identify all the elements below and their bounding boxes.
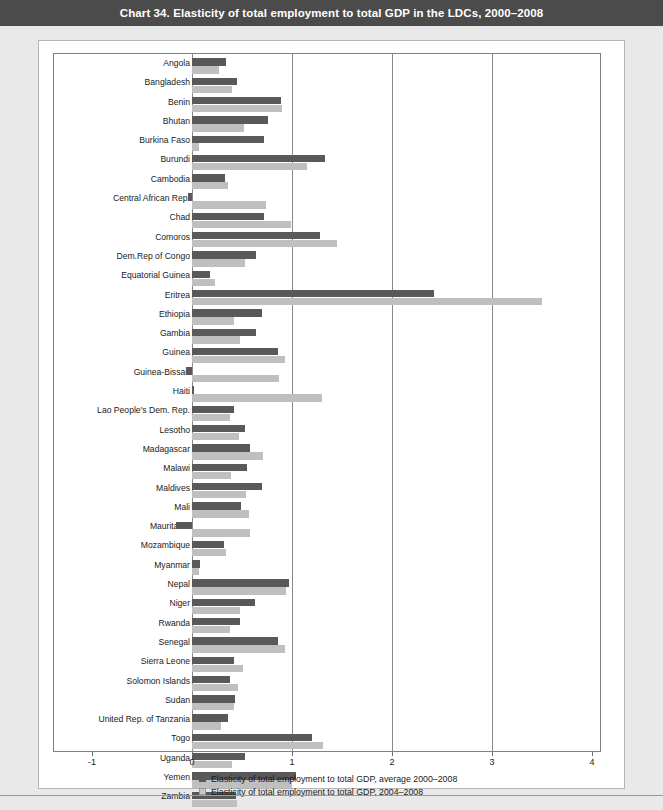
bar-light: [192, 86, 232, 93]
bar-dark: [192, 618, 240, 625]
bar-row: Bhutan: [54, 115, 600, 134]
axis-tick-mark: [292, 752, 293, 756]
bar-row: Bangladesh: [54, 76, 600, 95]
chart-page: Chart 34. Elasticity of total employment…: [0, 0, 663, 810]
axis-tick-label: 2: [389, 757, 394, 767]
category-label: Mali: [174, 502, 192, 512]
bar-row: Madagascar: [54, 443, 600, 462]
bar-light: [192, 433, 239, 440]
bar-light: [192, 298, 542, 305]
bar-row: Benin: [54, 96, 600, 115]
category-label: Bangladesh: [145, 77, 192, 87]
bar-dark: [192, 271, 210, 278]
category-label: Guinea: [162, 347, 192, 357]
bar-row: Chad: [54, 211, 600, 230]
bar-row: Rwanda: [54, 617, 600, 636]
bar-row: Ethiopia: [54, 308, 600, 327]
category-label: Bhutan: [163, 116, 192, 126]
category-label: Guinea-Bissau: [134, 367, 192, 377]
bar-dark: [192, 579, 289, 586]
bar-light: [192, 452, 263, 459]
category-label: Zambia: [161, 791, 192, 801]
axis-tick-label: 3: [489, 757, 494, 767]
bar-dark: [192, 502, 241, 509]
axis-tick-mark: [492, 752, 493, 756]
category-label: Senegal: [158, 637, 192, 647]
bar-dark: [192, 657, 234, 664]
axis-tick-label: 1: [289, 757, 294, 767]
category-label: Sudan: [165, 695, 192, 705]
axis-tick-label: 0: [189, 757, 194, 767]
bar-light: [192, 221, 291, 228]
bar-light: [192, 587, 286, 594]
bar-row: Haiti: [54, 385, 600, 404]
axis-tick-label: -1: [88, 757, 96, 767]
bar-dark: [192, 406, 234, 413]
legend-swatch-icon: [199, 775, 206, 782]
bar-light: [192, 375, 279, 382]
category-label: Burundi: [160, 154, 192, 164]
bar-row: Eritrea: [54, 289, 600, 308]
bar-dark: [176, 522, 192, 529]
category-label: Angola: [163, 58, 192, 68]
bar-row: Togo: [54, 732, 600, 751]
bar-row: Lao People's Dem. Rep.: [54, 404, 600, 423]
bar-light: [192, 665, 243, 672]
bar-row: Equatorial Guinea: [54, 269, 600, 288]
x-axis: -101234: [53, 752, 601, 774]
bar-light: [192, 201, 266, 208]
bar-light: [192, 240, 337, 247]
plot-area: AngolaBangladeshBeninBhutanBurkina FasoB…: [54, 54, 600, 751]
bar-light: [192, 722, 221, 729]
category-label: Madagascar: [143, 444, 192, 454]
bar-dark: [192, 483, 262, 490]
bar-row: Maldives: [54, 482, 600, 501]
bar-dark: [192, 136, 264, 143]
category-label: Solomon Islands: [126, 676, 192, 686]
bar-light: [192, 684, 238, 691]
bar-dark: [192, 78, 237, 85]
category-label: Cambodia: [151, 174, 192, 184]
bar-dark: [192, 464, 247, 471]
category-label: Central African Rep.: [113, 193, 192, 203]
bar-light: [192, 66, 219, 73]
category-label: Gambia: [160, 328, 192, 338]
bar-dark: [192, 251, 256, 258]
bar-dark: [192, 329, 256, 336]
bar-row: Burundi: [54, 153, 600, 172]
bar-row: Gambia: [54, 327, 600, 346]
bar-rows: AngolaBangladeshBeninBhutanBurkina FasoB…: [54, 57, 600, 748]
chart-panel: AngolaBangladeshBeninBhutanBurkina FasoB…: [38, 40, 625, 789]
axis-tick-mark: [92, 752, 93, 756]
axis-tick-mark: [592, 752, 593, 756]
bar-dark: [192, 309, 262, 316]
axis-tick-mark: [392, 752, 393, 756]
bar-dark: [192, 599, 255, 606]
bar-light: [192, 317, 234, 324]
category-label: Nepal: [168, 579, 192, 589]
bar-dark: [186, 367, 192, 374]
bar-light: [192, 124, 244, 131]
legend-item: Elasticity of total employment to total …: [199, 785, 457, 798]
bar-row: Senegal: [54, 636, 600, 655]
category-label: Maldives: [156, 483, 192, 493]
bar-row: Niger: [54, 597, 600, 616]
bar-light: [192, 800, 237, 807]
bar-light: [192, 626, 230, 633]
bar-row: Guinea-Bissau: [54, 366, 600, 385]
bar-row: Sierra Leone: [54, 655, 600, 674]
legend-label: Elasticity of total employment to total …: [211, 774, 457, 784]
category-label: Equatorial Guinea: [121, 270, 192, 280]
category-label: Burkina Faso: [139, 135, 192, 145]
category-label: United Rep. of Tanzania: [98, 714, 192, 724]
bar-row: Guinea: [54, 346, 600, 365]
bar-light: [192, 510, 249, 517]
category-label: Ethiopia: [159, 309, 192, 319]
bar-dark: [192, 290, 434, 297]
bar-dark: [192, 560, 200, 567]
bar-row: Nepal: [54, 578, 600, 597]
bar-light: [192, 105, 282, 112]
bar-light: [192, 394, 322, 401]
bar-light: [192, 414, 230, 421]
legend-swatch-icon: [199, 788, 206, 795]
